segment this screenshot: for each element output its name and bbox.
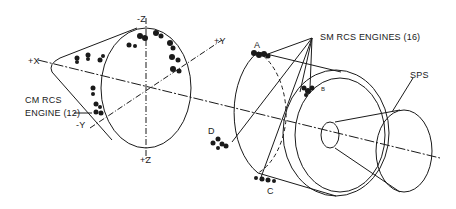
axis-label-minus-y: -Y <box>76 120 85 130</box>
axis-label-plus-y: +Y <box>214 36 226 46</box>
command-module <box>51 18 222 160</box>
service-module <box>234 52 432 196</box>
axis-label-minus-z: -Z <box>137 14 146 24</box>
sps-label: SPS <box>410 70 429 80</box>
cm-rcs-label-line2: ENGINE (12) <box>25 108 80 118</box>
rcs-engine-clusters <box>75 30 315 183</box>
rcs-diagram: +X -Z +Y -Y +Z CM RCS ENGINE (12) SM RCS… <box>0 0 456 209</box>
sm-rcs-leaders <box>74 38 413 180</box>
quad-label-a: A <box>254 40 260 50</box>
quad-label-d: D <box>208 126 215 136</box>
axis-label-plus-z: +Z <box>140 155 151 165</box>
axis-label-plus-x: +X <box>28 56 40 66</box>
quad-label-c: C <box>267 186 274 196</box>
cm-rcs-label-line1: CM RCS <box>25 95 62 105</box>
quad-label-b: B <box>321 84 325 94</box>
sm-rcs-label: SM RCS ENGINES (16) <box>320 32 420 42</box>
